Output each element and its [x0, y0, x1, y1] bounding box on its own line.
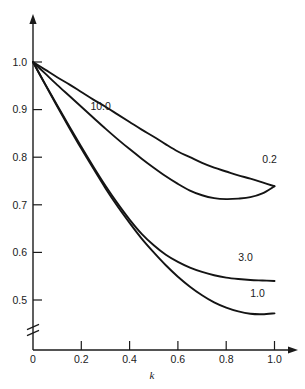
y-axis-arrowhead — [29, 14, 36, 24]
curve-10-0 — [33, 62, 275, 199]
line-chart: 0.50.60.70.80.91.0 00.20.40.60.81.0 0.21… — [0, 0, 305, 389]
curve-label-3-0: 3.0 — [238, 251, 253, 263]
x-tick-label: 0.6 — [171, 353, 186, 365]
curve-label-1-0: 1.0 — [250, 287, 265, 299]
axes — [29, 14, 298, 354]
y-tick-label: 0.9 — [12, 103, 27, 115]
curve-labels: 0.210.03.01.0 — [90, 100, 277, 300]
curve-1-0 — [33, 62, 275, 314]
y-tick-label: 0.8 — [12, 151, 27, 163]
y-tick-label: 1.0 — [12, 56, 27, 68]
x-tick-label: 1.0 — [267, 353, 282, 365]
y-tick-labels: 0.50.60.70.80.91.0 — [12, 56, 27, 306]
x-tick-labels: 00.20.40.60.81.0 — [30, 353, 282, 365]
axis-ticks — [33, 62, 275, 350]
y-tick-label: 0.7 — [12, 199, 27, 211]
y-tick-label: 0.6 — [12, 246, 27, 258]
x-axis-arrowhead — [288, 346, 298, 353]
x-tick-label: 0.2 — [74, 353, 89, 365]
x-tick-label: 0 — [30, 353, 36, 365]
x-axis-title: k — [150, 369, 156, 381]
curves — [33, 62, 275, 314]
y-tick-label: 0.5 — [12, 294, 27, 306]
curve-label-0-2: 0.2 — [262, 153, 277, 165]
chart-figure: 0.50.60.70.80.91.0 00.20.40.60.81.0 0.21… — [0, 0, 305, 389]
x-tick-label: 0.4 — [122, 353, 137, 365]
x-tick-label: 0.8 — [219, 353, 234, 365]
curve-label-10-0: 10.0 — [90, 100, 111, 112]
